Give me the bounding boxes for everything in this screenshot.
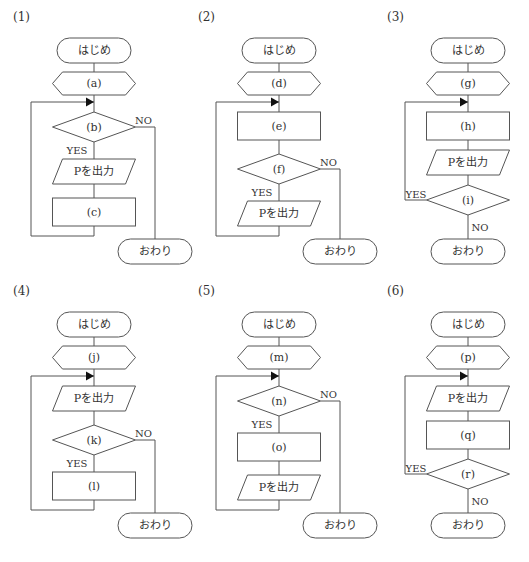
- output-label: Pを出力: [259, 206, 299, 220]
- start-terminal-label: はじめ: [263, 44, 296, 57]
- no-branch-line: [321, 401, 341, 513]
- output-label: Pを出力: [448, 155, 488, 169]
- init-label: (a): [86, 77, 101, 90]
- decision-label: (i): [462, 194, 474, 207]
- panel-number: (3): [387, 10, 404, 24]
- yes-label: YES: [251, 187, 273, 198]
- no-label: NO: [472, 222, 489, 233]
- start-terminal-label: はじめ: [263, 318, 296, 331]
- yes-label: YES: [251, 419, 273, 430]
- arrow-icon: [460, 372, 468, 381]
- no-label: NO: [472, 496, 489, 507]
- flowchart-figure: (1)はじめ(a)(b)YESPを出力(c)NOおわり(2)はじめ(d)(e)(…: [0, 0, 529, 562]
- yes-label: YES: [66, 458, 88, 469]
- end-terminal-label: おわり: [139, 245, 172, 258]
- end-terminal-label: おわり: [452, 245, 485, 258]
- yes-label: YES: [405, 463, 427, 474]
- arrow-icon: [460, 98, 468, 107]
- decision-label: (f): [273, 163, 286, 176]
- arrow-icon: [271, 372, 279, 381]
- arrow-icon: [271, 98, 279, 107]
- no-label: NO: [320, 157, 337, 168]
- process-label: (c): [87, 206, 102, 219]
- init-label: (m): [269, 351, 288, 364]
- no-branch-line: [136, 127, 156, 239]
- output-label: Pを出力: [74, 391, 114, 405]
- flowchart-5: (5)はじめ(m)(n)YES(o)Pを出力NOおわり: [198, 284, 377, 538]
- yes-label: YES: [66, 145, 88, 156]
- no-label: NO: [320, 389, 337, 400]
- decision-label: (r): [461, 468, 475, 481]
- init-label: (g): [460, 77, 476, 90]
- start-terminal-label: はじめ: [78, 318, 111, 331]
- process-label: (q): [460, 429, 476, 442]
- panel-number: (4): [13, 284, 30, 298]
- flowchart-3: (3)はじめ(g)(h)Pを出力(i)YESNOおわり: [387, 10, 510, 264]
- panel-number: (5): [198, 284, 215, 298]
- no-branch-line: [321, 169, 341, 239]
- output-label: Pを出力: [259, 480, 299, 494]
- arrow-icon: [86, 372, 94, 381]
- end-terminal-label: おわり: [324, 245, 357, 258]
- process-label: (o): [271, 441, 286, 454]
- process-label: (e): [271, 120, 286, 133]
- start-terminal-label: はじめ: [452, 318, 485, 331]
- flowchart-6: (6)はじめ(p)Pを出力(q)(r)YESNOおわり: [387, 284, 510, 538]
- output-label: Pを出力: [448, 391, 488, 405]
- process-label: (l): [88, 480, 100, 493]
- process-label: (h): [460, 120, 476, 133]
- decision-label: (k): [86, 434, 101, 447]
- arrow-icon: [86, 98, 94, 107]
- no-label: NO: [135, 115, 152, 126]
- end-terminal-label: おわり: [452, 519, 485, 532]
- panel-number: (6): [387, 284, 404, 298]
- decision-label: (n): [271, 395, 287, 408]
- yes-label: YES: [405, 189, 427, 200]
- no-branch-line: [136, 440, 156, 513]
- end-terminal-label: おわり: [324, 519, 357, 532]
- flowchart-2: (2)はじめ(d)(e)(f)YESPを出力NOおわり: [198, 10, 377, 264]
- panel-number: (2): [198, 10, 215, 24]
- end-terminal-label: おわり: [139, 519, 172, 532]
- decision-label: (b): [86, 121, 102, 134]
- output-label: Pを出力: [74, 164, 114, 178]
- panel-number: (1): [13, 10, 30, 24]
- start-terminal-label: はじめ: [452, 44, 485, 57]
- flowchart-4: (4)はじめ(j)Pを出力(k)YES(l)NOおわり: [13, 284, 192, 538]
- init-label: (j): [88, 351, 100, 364]
- start-terminal-label: はじめ: [78, 44, 111, 57]
- init-label: (d): [271, 77, 287, 90]
- init-label: (p): [460, 351, 476, 364]
- no-label: NO: [135, 428, 152, 439]
- flowchart-1: (1)はじめ(a)(b)YESPを出力(c)NOおわり: [13, 10, 192, 264]
